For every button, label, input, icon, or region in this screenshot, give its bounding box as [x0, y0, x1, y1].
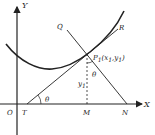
- tangent-line: [27, 29, 118, 104]
- point-R-label: R: [118, 24, 125, 32]
- x-axis-label: X: [143, 100, 150, 109]
- angle-theta-T-label: θ: [45, 96, 50, 104]
- angle-theta-P-label: θ: [92, 71, 97, 79]
- origin-label: O: [7, 109, 13, 117]
- ordinate-label: y1: [77, 80, 86, 89]
- point-Q-label: Q: [57, 23, 63, 31]
- point-P1-label: P1(x1,y1): [92, 54, 125, 63]
- point-N-label: N: [121, 109, 129, 117]
- angle-arc-T: [38, 95, 41, 104]
- point-M-label: M: [82, 109, 91, 117]
- normal-line: [67, 30, 127, 104]
- point-T-label: T: [22, 109, 28, 117]
- tangent-normal-diagram: Y X O T M N Q R P1(x1,y1) y1 θ θ: [0, 0, 155, 135]
- y-axis-label: Y: [22, 1, 28, 10]
